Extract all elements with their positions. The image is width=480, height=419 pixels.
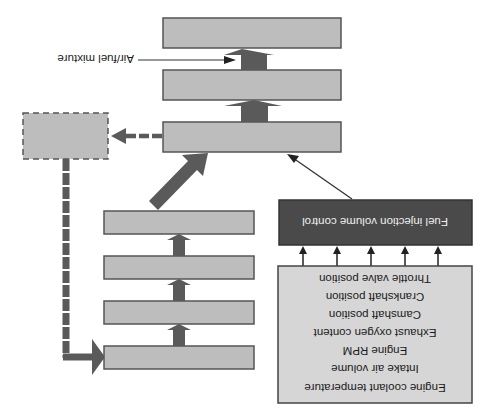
diagram-canvas: Air/fuel mixture Fuel injection volume c…: [0, 0, 480, 419]
top-box-3: [163, 122, 341, 152]
input-item: Engine coolant temperature: [304, 382, 445, 394]
input-item: Crankshaft position: [326, 291, 424, 303]
left-box-2: [104, 256, 254, 279]
top-box-2: [163, 70, 341, 100]
input-arrows: [299, 246, 442, 266]
left-box-1: [104, 211, 254, 234]
control-pointer-arrow: [287, 154, 352, 199]
left-box-3: [104, 301, 254, 324]
input-item: Camshaft position: [329, 309, 421, 321]
block-arrow-up-icon: [224, 100, 282, 122]
fuel-injection-control-label: Fuel injection volume control: [302, 216, 448, 228]
input-item: Exhaust oxygen content: [313, 327, 437, 339]
block-arrow-up-icon: [167, 234, 191, 346]
feedback-dashed-box: [23, 113, 108, 159]
input-item: Throttle valve position: [319, 273, 431, 285]
air-fuel-mixture-label: Air/fuel mixture: [57, 53, 134, 65]
air-fuel-pointer-arrow: [138, 56, 236, 64]
input-item: Intake air volume: [331, 363, 419, 375]
feedback-return-arrow: [63, 159, 105, 375]
dashed-arrow-left-icon: [111, 128, 162, 144]
input-item: Engine RPM: [343, 345, 408, 357]
left-box-4: [104, 346, 254, 369]
diagonal-block-arrow-icon: [149, 153, 208, 210]
top-box-1: [163, 18, 341, 48]
